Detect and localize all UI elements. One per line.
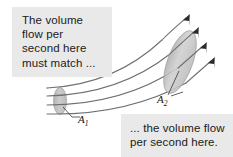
cross-section-a2 <box>157 27 203 98</box>
arrowhead-3 <box>200 42 207 54</box>
callout-top-left: The volume flow per second here must mat… <box>12 7 112 77</box>
area-label-a2-subscript: 2 <box>164 99 168 108</box>
arrowhead-1 <box>183 14 190 26</box>
area-label-a2: A2 <box>157 93 167 108</box>
arrowhead-4 <box>208 57 215 69</box>
area-label-a2-symbol: A <box>157 93 164 105</box>
area-label-a1: A1 <box>78 113 88 128</box>
area-label-a1-symbol: A <box>78 113 85 125</box>
area-label-a1-subscript: 1 <box>85 119 89 128</box>
cross-section-a1 <box>54 88 67 115</box>
figure-root: The volume flow per second here must mat… <box>0 0 233 157</box>
callout-bottom-right: ... the volume flow per second here. <box>121 114 233 157</box>
